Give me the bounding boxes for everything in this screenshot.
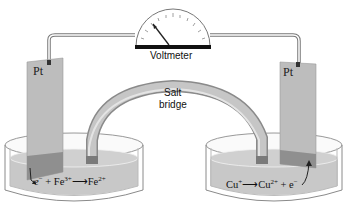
right-electrode-label: Pt (283, 65, 293, 80)
reaction-arrow: ⟶ (242, 179, 258, 190)
salt-bridge-label-line2: bridge (159, 99, 187, 110)
voltmeter-icon (135, 9, 211, 49)
salt-bridge-label-line1: Salt (164, 87, 181, 98)
reaction-arrow: ⟶ (72, 176, 88, 187)
right-reaction: Cu+⟶Cu2+ + e− (226, 178, 298, 190)
left-reaction: e− + Fe3+⟶Fe2+ (34, 175, 106, 187)
left-electrode-label: Pt (33, 64, 43, 79)
voltmeter-label: Voltmeter (150, 50, 192, 61)
